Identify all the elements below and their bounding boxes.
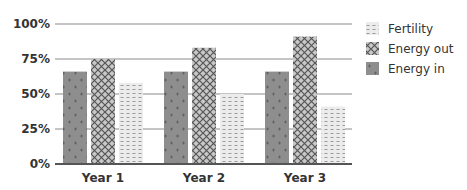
legend-swatch (366, 62, 379, 75)
bar-fertility (119, 83, 143, 164)
legend-label: Fertility (388, 22, 433, 36)
bar-fertility (321, 107, 345, 164)
x-tick-label: Year 3 (283, 171, 326, 185)
y-tick-label: 100% (13, 17, 50, 31)
y-tick-label: 75% (21, 52, 50, 66)
legend: FertilityEnergy outEnergy in (366, 22, 454, 76)
bar-fertility (220, 94, 244, 164)
x-axis-labels: Year 1Year 2Year 3 (81, 171, 326, 185)
bar-energy-out (192, 48, 216, 164)
bar-energy-in (164, 72, 188, 164)
legend-swatch (366, 22, 379, 35)
legend-swatch (366, 42, 379, 55)
y-tick-label: 25% (21, 122, 50, 136)
x-tick-label: Year 2 (182, 171, 225, 185)
y-tick-label: 0% (30, 157, 50, 171)
chart: 0%25%50%75%100% Year 1Year 2Year 3 Ferti… (0, 0, 467, 190)
bars (63, 37, 345, 164)
bar-energy-out (91, 59, 115, 164)
x-tick-label: Year 1 (81, 171, 124, 185)
legend-label: Energy in (388, 62, 445, 76)
bar-energy-in (63, 72, 87, 164)
bar-energy-out (293, 37, 317, 164)
legend-label: Energy out (388, 42, 454, 56)
y-axis-ticks: 0%25%50%75%100% (13, 17, 50, 171)
bar-energy-in (265, 72, 289, 164)
y-tick-label: 50% (21, 87, 50, 101)
